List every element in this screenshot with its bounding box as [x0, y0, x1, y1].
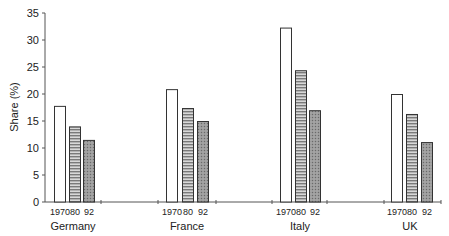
y-tick-label: 20 — [27, 88, 39, 100]
group-label-uk: UK — [402, 220, 418, 232]
bars — [55, 28, 433, 202]
group-label-france: France — [170, 220, 204, 232]
group-label-germany: Germany — [50, 220, 96, 232]
bar-uk-92 — [422, 143, 433, 202]
bar-year-label: 1970 — [276, 207, 296, 217]
bar-year-label: 1970 — [50, 207, 70, 217]
y-tick-label: 5 — [33, 169, 39, 181]
bar-year-label: 92 — [422, 207, 432, 217]
y-tick-label: 35 — [27, 7, 39, 19]
y-tick-label: 30 — [27, 34, 39, 46]
y-axis-label: Share (%) — [8, 82, 20, 132]
bar-italy-92 — [310, 111, 321, 202]
bar-france-1970 — [167, 90, 178, 202]
bar-year-label: 1970 — [162, 207, 182, 217]
bar-france-92 — [198, 122, 209, 203]
bar-year-label: 80 — [407, 207, 417, 217]
bar-germany-80 — [70, 127, 81, 202]
y-tick-label: 0 — [33, 196, 39, 208]
bar-chart: 05101520253035 19708092Germany19708092Fr… — [0, 0, 449, 236]
x-axis — [45, 200, 441, 204]
bar-italy-1970 — [281, 28, 292, 202]
bar-year-label: 80 — [183, 207, 193, 217]
bar-year-label: 92 — [198, 207, 208, 217]
bar-year-label: 80 — [296, 207, 306, 217]
bar-uk-80 — [407, 114, 418, 202]
y-tick-label: 10 — [27, 142, 39, 154]
bar-year-label: 92 — [84, 207, 94, 217]
group-label-italy: Italy — [290, 220, 311, 232]
bar-germany-92 — [84, 140, 95, 202]
bar-year-label: 1970 — [387, 207, 407, 217]
x-labels: 19708092Germany19708092France19708092Ita… — [50, 207, 432, 232]
y-tick-label: 15 — [27, 115, 39, 127]
bar-france-80 — [183, 109, 194, 202]
y-axis: 05101520253035 — [27, 7, 45, 208]
bar-uk-1970 — [392, 95, 403, 203]
bar-year-label: 92 — [310, 207, 320, 217]
y-tick-label: 25 — [27, 61, 39, 73]
bar-year-label: 80 — [70, 207, 80, 217]
bar-germany-1970 — [55, 106, 66, 202]
bar-italy-80 — [296, 71, 307, 202]
